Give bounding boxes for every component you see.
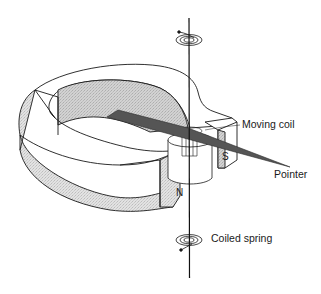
galvanometer-diagram: Moving coil Pointer Coiled spring N S bbox=[0, 0, 321, 294]
north-pole-label: N bbox=[176, 188, 183, 198]
spindle-axis bbox=[189, 18, 190, 278]
south-pole-label: S bbox=[222, 152, 229, 162]
diagram-canvas bbox=[0, 0, 321, 294]
pointer-label: Pointer bbox=[274, 169, 307, 180]
coiled-spring-label: Coiled spring bbox=[211, 233, 272, 244]
moving-coil-label: Moving coil bbox=[242, 119, 295, 130]
